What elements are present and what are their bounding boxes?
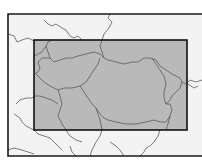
map-canvas (0, 0, 202, 162)
locator-map (0, 0, 202, 162)
highlight-area (34, 40, 187, 130)
